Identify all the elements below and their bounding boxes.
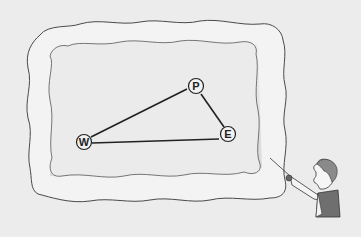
cloud-inner — [49, 40, 260, 177]
svg-text:E: E — [224, 128, 231, 140]
cloud-frame-graphic: P E W — [0, 0, 361, 237]
svg-text:P: P — [192, 80, 199, 92]
node-e: E — [221, 127, 236, 142]
node-w: W — [77, 135, 92, 150]
hand — [286, 175, 292, 181]
node-p: P — [189, 79, 204, 94]
illustration: P E W — [0, 0, 361, 237]
svg-text:W: W — [79, 136, 90, 148]
